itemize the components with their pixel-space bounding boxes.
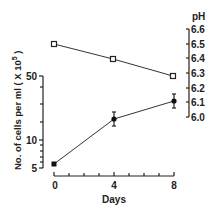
cell-count-series <box>52 94 177 167</box>
ph-tick: 6.2 <box>191 83 205 94</box>
left-tick-50: 50 <box>26 71 38 82</box>
ph-tick: 6.5 <box>191 39 205 50</box>
ph-series <box>52 42 176 79</box>
ph-tick: 6.4 <box>191 53 205 64</box>
x-axis: 0 4 8 Days <box>52 172 177 205</box>
left-tick-10: 10 <box>26 135 38 146</box>
ph-marker-day0 <box>52 42 57 47</box>
ph-marker-day8 <box>171 74 176 79</box>
right-y-axis: 6.6 6.5 6.4 6.3 6.2 6.1 6.0 pH <box>186 11 205 123</box>
ph-tick: 6.6 <box>191 24 205 35</box>
ph-tick: 6.0 <box>191 112 205 123</box>
chart-canvas: 50 10 5 No. of cells per ml ( X 105 ) 6.… <box>0 0 216 211</box>
left-axis-title: No. of cells per ml ( X 105 ) <box>11 50 23 170</box>
ph-marker-day4 <box>111 57 116 62</box>
x-tick-8: 8 <box>171 180 177 191</box>
ph-tick: 6.1 <box>191 97 205 108</box>
cell-marker-day0 <box>52 162 57 167</box>
x-axis-title: Days <box>102 194 126 205</box>
right-axis-title: pH <box>192 11 205 22</box>
x-tick-0: 0 <box>52 180 58 191</box>
left-tick-5: 5 <box>31 163 37 174</box>
left-y-axis: 50 10 5 No. of cells per ml ( X 105 ) <box>11 50 43 174</box>
x-tick-4: 4 <box>111 180 117 191</box>
cell-marker-day4 <box>111 116 116 121</box>
cell-marker-day8 <box>171 98 176 103</box>
ph-tick: 6.3 <box>191 68 205 79</box>
